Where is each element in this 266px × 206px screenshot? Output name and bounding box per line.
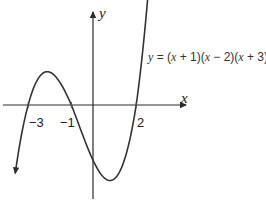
x-tick-label-2: 2 — [137, 115, 144, 130]
x-tick-label-neg1: −1 — [60, 115, 75, 130]
cubic-graph: x y −3 −1 2 y = (x + 1)(x − 2)(x + 3) — [0, 0, 266, 206]
x-tick-label-neg3: −3 — [29, 115, 44, 130]
cubic-curve — [15, 0, 148, 181]
y-axis-label: y — [97, 5, 106, 21]
x-axis-label: x — [180, 90, 188, 106]
equation-label: y = (x + 1)(x − 2)(x + 3) — [147, 50, 266, 64]
